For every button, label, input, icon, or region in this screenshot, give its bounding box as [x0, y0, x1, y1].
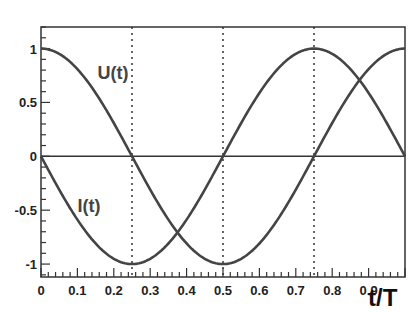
vertical-dashed-lines — [132, 27, 314, 277]
x-tick-label: 0.7 — [287, 283, 305, 298]
y-tick-label: 1 — [30, 42, 37, 57]
y-tick-label: 0 — [30, 149, 37, 164]
chart-canvas: 10.50-0.5-1 00.10.20.30.40.50.60.70.80.9… — [0, 0, 409, 312]
x-tick-label: 0.8 — [323, 283, 341, 298]
series-label: I(t) — [77, 196, 100, 216]
series-label: U(t) — [97, 63, 128, 83]
x-axis-ticks — [41, 268, 405, 277]
x-tick-label: 0.5 — [214, 283, 232, 298]
y-tick-label: -0.5 — [15, 203, 37, 218]
x-tick-label: 0.1 — [68, 283, 86, 298]
y-axis-ticks — [41, 27, 50, 275]
x-tick-label: 0.2 — [105, 283, 123, 298]
y-tick-label: 0.5 — [19, 95, 37, 110]
y-tick-label: -1 — [25, 257, 37, 272]
series-labels: U(t)I(t) — [77, 63, 128, 217]
x-axis-tick-labels: 00.10.20.30.40.50.60.70.80.9 — [37, 283, 377, 298]
x-tick-label: 0.6 — [250, 283, 268, 298]
y-axis-tick-labels: 10.50-0.5-1 — [15, 42, 37, 273]
x-tick-label: 0.4 — [178, 283, 197, 298]
x-tick-label: 0 — [37, 283, 44, 298]
x-tick-label: 0.3 — [141, 283, 159, 298]
x-axis-title: t/T — [368, 284, 398, 311]
